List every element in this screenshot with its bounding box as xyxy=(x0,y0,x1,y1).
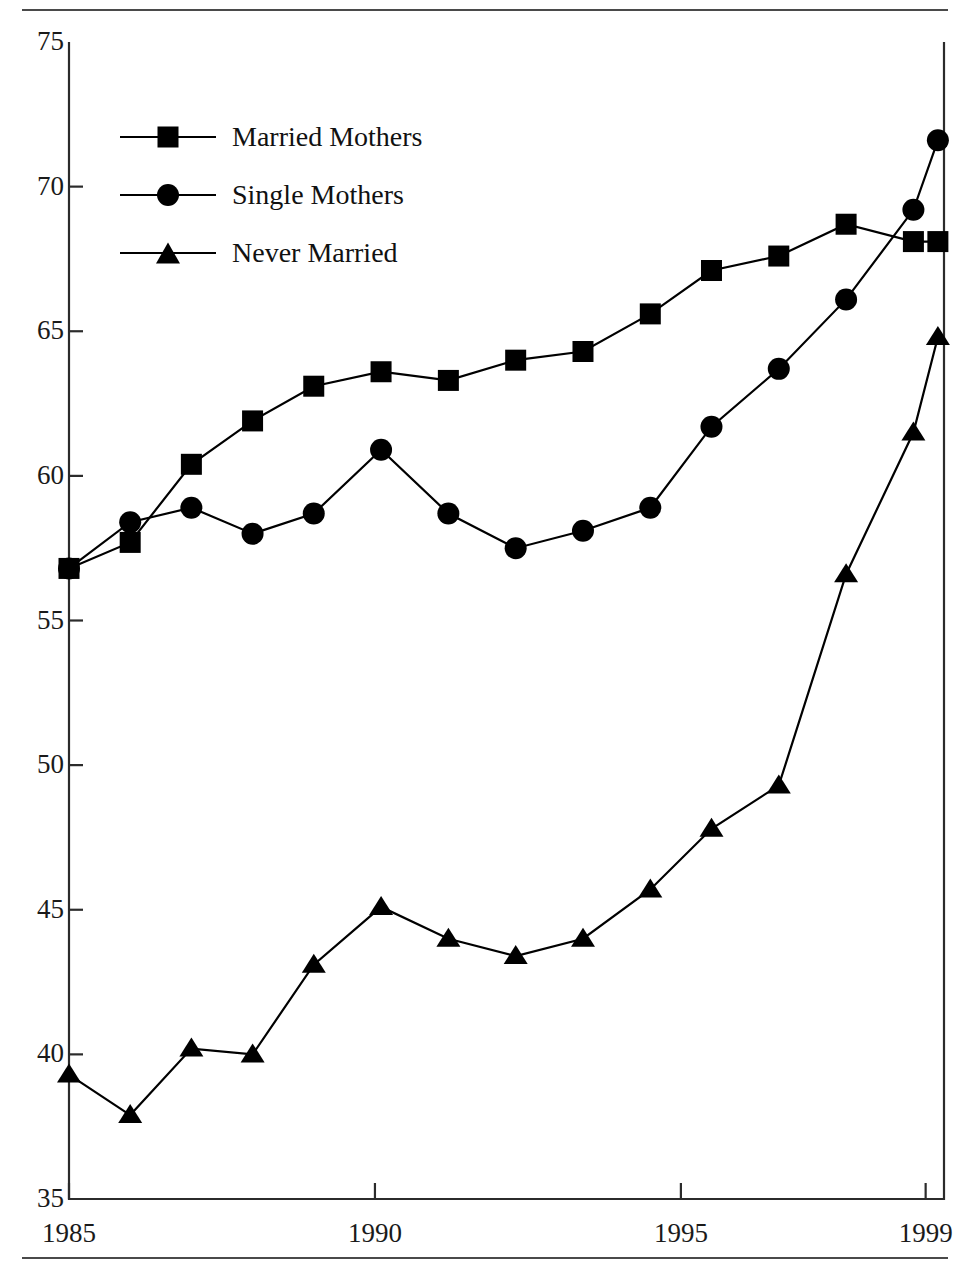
triangle-marker-icon xyxy=(926,326,950,345)
x-tick-label: 1995 xyxy=(631,1220,731,1247)
square-marker-icon xyxy=(120,532,141,553)
y-tick-label: 35 xyxy=(8,1185,64,1212)
square-marker-icon xyxy=(120,125,216,149)
circle-marker-icon xyxy=(572,520,594,542)
square-marker-icon xyxy=(303,376,324,397)
legend-label-married-mothers: Married Mothers xyxy=(232,121,423,153)
x-tick-label: 1990 xyxy=(325,1220,425,1247)
triangle-marker-icon xyxy=(436,928,460,947)
x-axis-ticks xyxy=(69,1183,926,1199)
legend-item-never-married: Never Married xyxy=(120,224,423,282)
circle-marker-icon xyxy=(639,497,661,519)
y-tick-label: 60 xyxy=(8,462,64,489)
circle-marker-icon xyxy=(303,502,325,524)
triangle-marker-icon xyxy=(369,896,393,915)
square-marker-icon xyxy=(836,214,857,235)
y-tick-label: 40 xyxy=(8,1040,64,1067)
y-tick-label: 50 xyxy=(8,751,64,778)
circle-marker-icon xyxy=(768,358,790,380)
legend-item-married-mothers: Married Mothers xyxy=(120,108,423,166)
circle-marker-icon xyxy=(58,557,80,579)
x-tick-label: 1999 xyxy=(876,1220,959,1247)
legend-label-single-mothers: Single Mothers xyxy=(232,179,404,211)
square-marker-icon xyxy=(242,410,263,431)
triangle-marker-icon xyxy=(901,422,925,441)
circle-marker-icon xyxy=(437,502,459,524)
y-tick-label: 65 xyxy=(8,317,64,344)
square-marker-icon xyxy=(903,231,924,252)
circle-marker-icon xyxy=(927,129,949,151)
series-never-married xyxy=(57,326,950,1123)
circle-marker-icon xyxy=(242,523,264,545)
triangle-marker-icon xyxy=(767,774,791,793)
circle-marker-icon xyxy=(370,439,392,461)
circle-marker-icon xyxy=(505,537,527,559)
y-tick-label: 70 xyxy=(8,173,64,200)
circle-marker-icon xyxy=(119,511,141,533)
y-tick-label: 75 xyxy=(8,28,64,55)
square-marker-icon xyxy=(572,341,593,362)
square-marker-icon xyxy=(640,303,661,324)
y-tick-label: 55 xyxy=(8,607,64,634)
chart-legend: Married Mothers Single Mothers Never Mar… xyxy=(120,108,423,282)
square-marker-icon xyxy=(927,231,948,252)
legend-label-never-married: Never Married xyxy=(232,237,398,269)
y-axis-ticks xyxy=(69,187,83,1055)
triangle-marker-icon xyxy=(834,563,858,582)
square-marker-icon xyxy=(505,350,526,371)
figure-container: 354045505560657075 1985199019951999 Marr… xyxy=(0,0,959,1271)
circle-marker-icon xyxy=(902,199,924,221)
circle-marker-icon xyxy=(180,497,202,519)
triangle-marker-icon xyxy=(179,1038,203,1057)
square-marker-icon xyxy=(701,260,722,281)
square-marker-icon xyxy=(181,454,202,475)
x-tick-label: 1985 xyxy=(19,1220,119,1247)
square-marker-icon xyxy=(438,370,459,391)
circle-marker-icon xyxy=(120,183,216,207)
legend-item-single-mothers: Single Mothers xyxy=(120,166,423,224)
triangle-marker-icon xyxy=(571,928,595,947)
circle-marker-icon xyxy=(835,288,857,310)
square-marker-icon xyxy=(371,361,392,382)
triangle-marker-icon xyxy=(120,241,216,265)
y-tick-label: 45 xyxy=(8,896,64,923)
square-marker-icon xyxy=(768,246,789,267)
series-line-never-married xyxy=(69,337,938,1115)
circle-marker-icon xyxy=(700,416,722,438)
triangle-marker-icon xyxy=(700,818,724,837)
